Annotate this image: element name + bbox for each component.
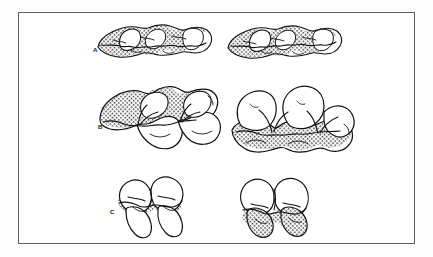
row-label-a: A <box>93 46 98 53</box>
specimen-a-left: A <box>93 25 212 57</box>
specimen-b-right-lobe-upper-3 <box>324 106 354 137</box>
specimen-a-right <box>228 26 342 58</box>
row-label-b: B <box>98 123 103 130</box>
specimen-b-left: B <box>98 87 220 149</box>
row-label-c: C <box>110 208 115 215</box>
specimen-a-left-fossette-2 <box>163 51 174 53</box>
specimen-b-right-lobe-upper-2 <box>283 86 324 128</box>
figure-root: A <box>0 0 433 257</box>
specimen-c-right <box>241 178 309 237</box>
figure-plate: A <box>0 0 433 257</box>
specimen-c-left: C <box>110 177 183 238</box>
specimen-b-right <box>232 86 354 152</box>
specimen-b-right-lobe-upper-1 <box>237 91 276 131</box>
